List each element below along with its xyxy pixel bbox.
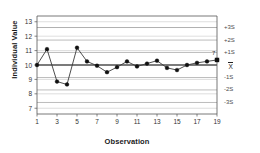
data-point[interactable] [105, 70, 109, 74]
data-point[interactable] [85, 59, 89, 63]
x-tick-label: 15 [171, 118, 183, 125]
data-point[interactable] [205, 59, 209, 63]
x-axis-title: Observation [37, 137, 217, 146]
y-tick-label: 7 [18, 105, 32, 112]
sigma-limit-label: +1S [224, 49, 250, 56]
x-tick-label: 9 [111, 118, 123, 125]
data-point[interactable] [135, 65, 139, 69]
data-point[interactable] [75, 46, 79, 50]
data-point[interactable] [175, 68, 179, 72]
data-point[interactable] [145, 62, 149, 66]
sigma-limit-label: +3S [224, 24, 250, 31]
data-point[interactable] [95, 64, 99, 68]
violation-marker[interactable] [215, 58, 219, 62]
data-point[interactable] [155, 59, 159, 63]
x-tick-label: 19 [211, 118, 223, 125]
sigma-limit-label: X [228, 62, 254, 70]
control-chart: Individual Value Observation 78910111213… [0, 0, 260, 153]
data-point[interactable] [125, 59, 129, 63]
y-tick-label: 9 [18, 76, 32, 83]
y-tick-label: 13 [18, 18, 32, 25]
x-tick-label: 5 [71, 118, 83, 125]
data-point[interactable] [65, 83, 69, 87]
data-point[interactable] [195, 61, 199, 65]
y-tick-label: 10 [18, 62, 32, 69]
data-point[interactable] [35, 63, 39, 67]
x-tick-label: 7 [91, 118, 103, 125]
data-point[interactable] [55, 80, 59, 84]
x-tick-label: 13 [151, 118, 163, 125]
data-series-line [37, 48, 217, 85]
data-point[interactable] [185, 63, 189, 67]
x-tick-label: 1 [31, 118, 43, 125]
plot-area [0, 0, 260, 153]
data-point[interactable] [45, 47, 49, 51]
sigma-limit-label: -1S [224, 74, 250, 81]
sigma-limit-label: -2S [224, 86, 250, 93]
sigma-limit-label: +2S [224, 37, 250, 44]
point-annotation: 7 [212, 50, 215, 56]
data-point[interactable] [165, 66, 169, 70]
x-tick-label: 17 [191, 118, 203, 125]
x-tick-label: 11 [131, 118, 143, 125]
sigma-limit-label: -3S [224, 99, 250, 106]
y-tick-label: 8 [18, 90, 32, 97]
y-tick-label: 11 [18, 47, 32, 54]
x-tick-label: 3 [51, 118, 63, 125]
data-point[interactable] [115, 65, 119, 69]
y-tick-label: 12 [18, 33, 32, 40]
